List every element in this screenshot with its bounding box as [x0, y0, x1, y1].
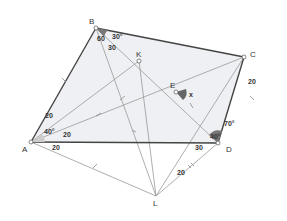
label-L: L: [153, 199, 158, 208]
geometry-diagram: A B C D E K L 30° 60 30 40° 20 20 20 x 7…: [0, 0, 287, 221]
label-K: K: [136, 50, 142, 59]
label-A: A: [22, 145, 28, 154]
angle-E-x: x: [189, 91, 193, 98]
label-E: E: [170, 81, 175, 90]
seg-AB-20: 20: [45, 112, 53, 119]
label-B: B: [89, 17, 94, 26]
seg-DA-30: 30: [195, 144, 203, 151]
label-D: D: [226, 145, 232, 154]
angle-D-lower: 40°: [210, 133, 221, 140]
seg-B-30: 30: [108, 44, 116, 51]
angle-B-lower: 60: [97, 35, 105, 42]
seg-CD-20: 20: [248, 78, 256, 85]
angle-B-upper: 30°: [112, 33, 123, 40]
seg-AD-20: 20: [52, 144, 60, 151]
seg-AE-20: 20: [63, 131, 71, 138]
seg-DL-20: 20: [177, 169, 185, 176]
diagram-canvas: A B C D E K L 30° 60 30 40° 20 20 20 x 7…: [0, 0, 287, 221]
label-C: C: [250, 50, 256, 59]
angle-D-upper: 70°: [224, 120, 235, 127]
angle-A: 40°: [44, 128, 55, 135]
